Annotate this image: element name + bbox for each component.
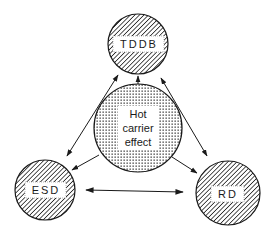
node-tddb: TDDB — [108, 14, 168, 74]
node-esd-label: ESD — [32, 184, 61, 196]
edge-esd-rd — [86, 190, 183, 192]
node-hot-carrier-label-line-2: carrier — [122, 122, 154, 134]
node-esd: ESD — [15, 160, 75, 220]
edge-hot-carrier-to-esd — [72, 155, 99, 170]
node-rd: RD — [196, 161, 260, 225]
node-hot-carrier-label-line-1: Hot — [129, 108, 146, 120]
node-tddb-label: TDDB — [120, 38, 158, 50]
node-rd-label: RD — [218, 188, 238, 200]
node-hot-carrier: Hot carrier effect — [94, 84, 182, 172]
reliability-diagram: TDDB Hot carrier effect ESD RD — [0, 0, 267, 231]
edge-hot-carrier-to-rd — [172, 157, 197, 173]
node-hot-carrier-label-line-3: effect — [125, 136, 152, 148]
